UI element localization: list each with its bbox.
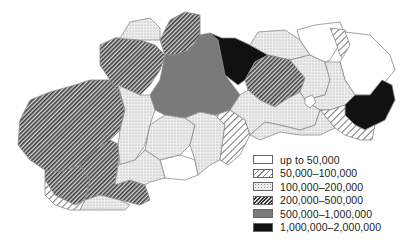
legend-label: 100,000–200,000 [280,181,363,193]
legend-label: up to 50,000 [280,154,340,166]
legend-item: 500,000–1,000,000 [253,207,381,221]
region-center-dots-2 [145,115,195,160]
legend-label: 200,000–500,000 [280,194,363,206]
swatch-black [253,223,273,232]
legend-label: 50,000–100,000 [280,167,357,179]
legend-item: 50,000–100,000 [253,167,381,181]
legend-label: 500,000–1,000,000 [280,208,372,220]
swatch-empty [253,155,273,164]
legend-label: 1,000,000–2,000,000 [280,221,381,233]
swatch-light-hatch [253,169,273,178]
region-n-dots [115,18,160,40]
swatch-gray [253,209,273,218]
legend-item: 1,000,000–2,000,000 [253,221,381,235]
legend: up to 50,000 50,000–100,000 100,000–200,… [253,153,381,234]
legend-item: up to 50,000 [253,153,381,167]
legend-item: 200,000–500,000 [253,194,381,208]
swatch-dotted [253,182,273,191]
region-center-white [160,155,198,180]
legend-item: 100,000–200,000 [253,180,381,194]
swatch-dense-hatch [253,196,273,205]
